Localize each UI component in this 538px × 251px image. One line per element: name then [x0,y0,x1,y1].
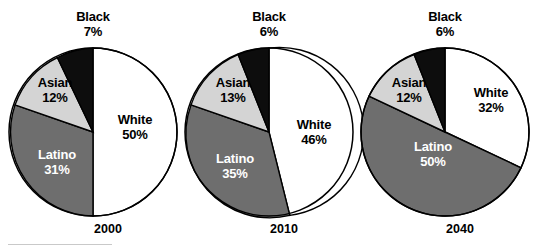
callout-black-2040: Black 6% [408,10,482,39]
value-latino-2040: 50% [398,155,468,170]
pie-chart-figure: Black 7% Asian 12% Latino 31% White 50% … [0,0,538,251]
label-latino-2040: Latino [398,140,468,155]
callout-white-2040: White 32% [460,86,522,115]
label-white-2040: White [460,86,522,101]
label-black-2040: Black [408,10,482,25]
pie-slices-2040 [361,48,529,216]
year-label-2040: 2040 [434,222,486,236]
footer-divider-rule [8,244,112,245]
value-black-2040: 6% [408,25,482,40]
value-asian-2040: 12% [378,91,440,106]
value-white-2040: 32% [460,101,522,116]
callout-latino-2040: Latino 50% [398,140,468,169]
callout-asian-2040: Asian 12% [378,76,440,105]
label-asian-2040: Asian [378,76,440,91]
pie-chart-2040: Black 6% Asian 12% Latino 50% White 32% … [0,0,538,251]
